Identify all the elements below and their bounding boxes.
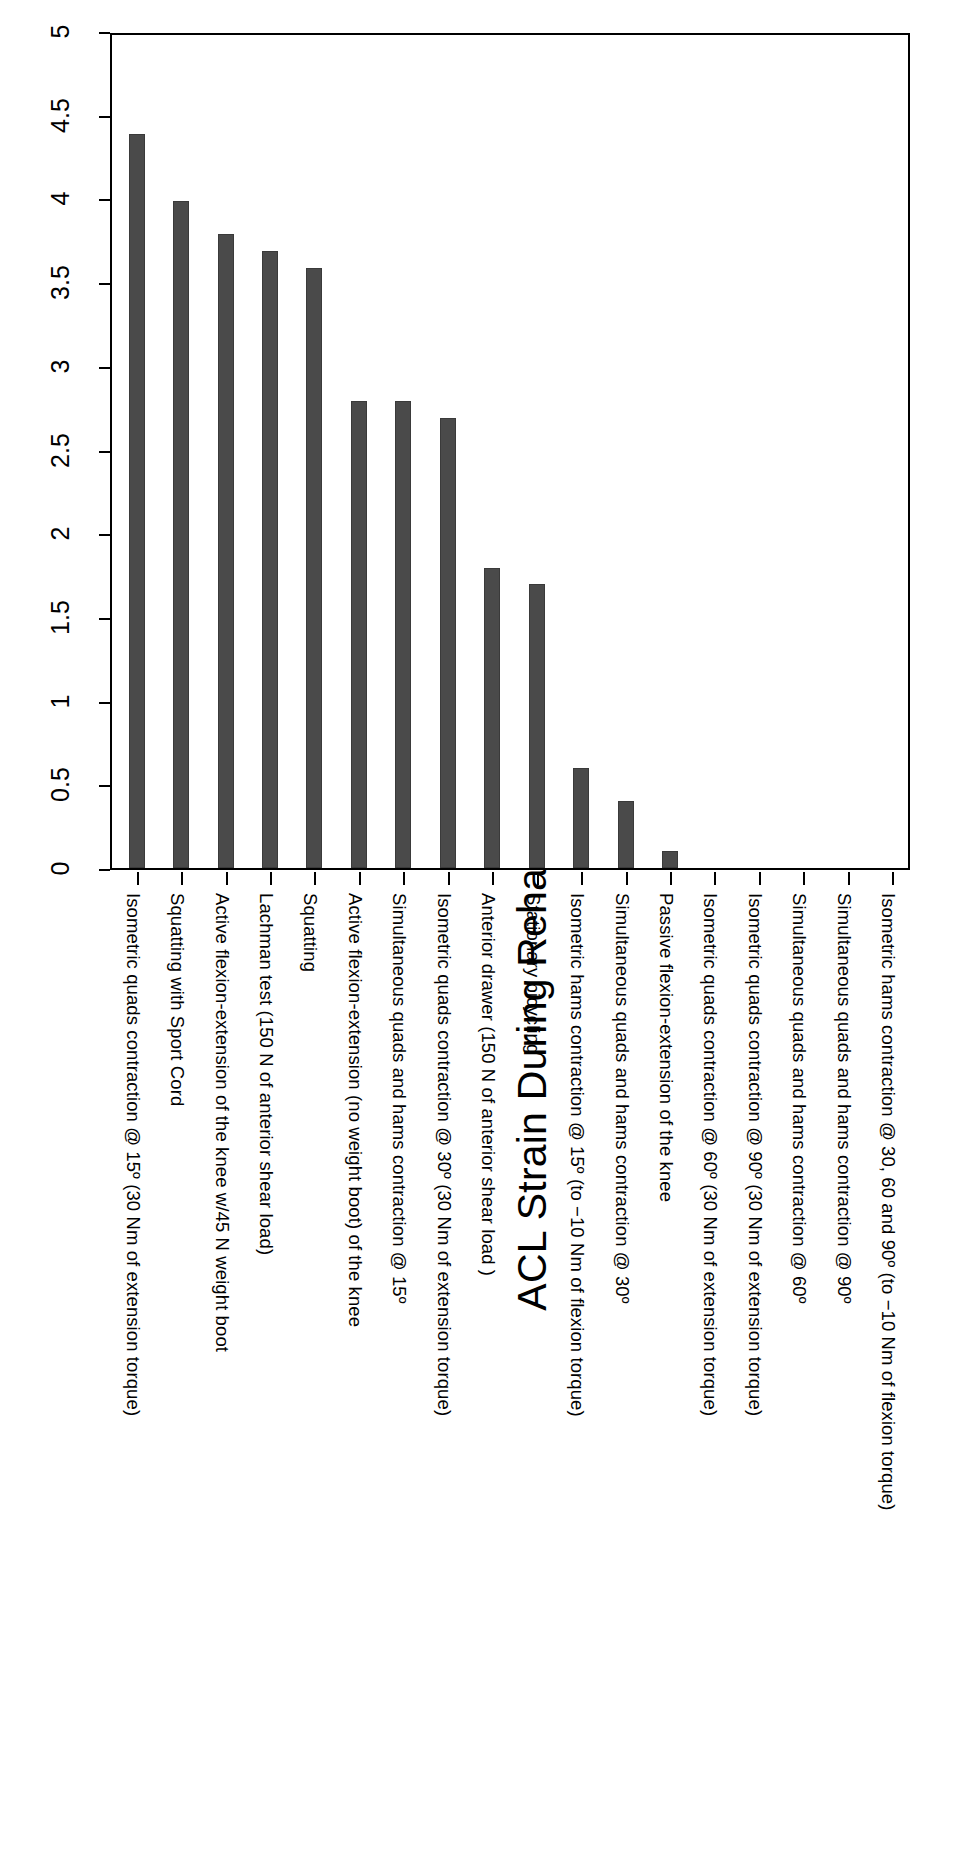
x-axis-tick [226, 872, 228, 885]
x-axis-category-label: Squatting with Sport Cord [166, 893, 188, 1106]
x-axis-tick [626, 872, 628, 885]
x-axis-tick [181, 872, 183, 885]
x-axis-tick [448, 872, 450, 885]
bar [351, 401, 367, 868]
x-axis-category-label: Stationary bicycling [522, 893, 544, 1054]
x-axis-tick [848, 872, 850, 885]
y-axis-tick-label: 4.5 [46, 84, 75, 146]
y-axis-tick-label: 0 [46, 838, 75, 900]
y-axis-tick-label: 5 [46, 1, 75, 63]
x-axis-tick [137, 872, 139, 885]
chart-figure: ACL Strain During Rehabilitation Activit… [0, 0, 957, 1870]
x-axis-category-label: Lachman test (150 N of anterior shear lo… [255, 893, 277, 1255]
x-axis-category-label: Isometric hams contraction @ 15º (to −10… [566, 893, 588, 1417]
bar [440, 418, 456, 868]
y-axis-tick [99, 618, 110, 620]
x-axis-tick [759, 872, 761, 885]
y-axis-tick [99, 32, 110, 34]
x-axis-tick [314, 872, 316, 885]
bar [218, 234, 234, 868]
bar [529, 584, 545, 868]
x-axis-category-label: Simultaneous quads and hams contraction … [388, 893, 410, 1304]
y-axis-tick-label: 1.5 [46, 586, 75, 648]
y-axis-tick-label: 2.5 [46, 419, 75, 481]
x-axis-tick [803, 872, 805, 885]
x-axis-category-label: Simultaneous quads and hams contraction … [788, 893, 810, 1304]
x-axis-category-label: Isometric quads contraction @ 30º (30 Nm… [433, 893, 455, 1416]
bar [484, 568, 500, 868]
bar [129, 134, 145, 868]
y-axis-tick [99, 785, 110, 787]
y-axis-tick-label: 2 [46, 503, 75, 565]
x-axis-category-label: Isometric quads contraction @ 90º (30 Nm… [744, 893, 766, 1416]
bar [262, 251, 278, 868]
x-axis-tick [492, 872, 494, 885]
y-axis-tick [99, 116, 110, 118]
y-axis-tick [99, 199, 110, 201]
x-axis-category-label: Simultaneous quads and hams contraction … [833, 893, 855, 1304]
x-axis-category-label: Passive flexion-extension of the knee [655, 893, 677, 1202]
x-axis-tick [403, 872, 405, 885]
x-axis-tick [537, 872, 539, 885]
y-axis-tick [99, 869, 110, 871]
x-axis-tick [270, 872, 272, 885]
y-axis-tick [99, 534, 110, 536]
y-axis-tick-label: 1 [46, 670, 75, 732]
bar [395, 401, 411, 868]
y-axis-tick [99, 451, 110, 453]
x-axis-category-label: Isometric quads contraction @ 15º (30 Nm… [122, 893, 144, 1416]
y-axis-tick [99, 283, 110, 285]
x-axis-tick [670, 872, 672, 885]
y-axis-tick [99, 367, 110, 369]
bar [618, 801, 634, 868]
bar [573, 768, 589, 868]
bar [306, 268, 322, 868]
x-axis-tick [892, 872, 894, 885]
bar [662, 851, 678, 868]
x-axis-category-label: Isometric hams contraction @ 30, 60 and … [877, 893, 899, 1510]
x-axis-tick [359, 872, 361, 885]
y-axis-tick [99, 702, 110, 704]
x-axis-category-label: Squatting [299, 893, 321, 972]
x-axis-tick [581, 872, 583, 885]
bar [173, 201, 189, 868]
y-axis-tick-label: 3 [46, 335, 75, 397]
x-axis-tick [714, 872, 716, 885]
y-axis-tick-label: 3.5 [46, 252, 75, 314]
y-axis-tick-label: 0.5 [46, 754, 75, 816]
x-axis-category-label: Simultaneous quads and hams contraction … [611, 893, 633, 1304]
x-axis-category-label: Active flexion-extension (no weight boot… [344, 893, 366, 1327]
x-axis-category-label: Active flexion-extension of the knee w/4… [211, 893, 233, 1352]
y-axis-tick-label: 4 [46, 168, 75, 230]
x-axis-category-label: Isometric quads contraction @ 60º (30 Nm… [699, 893, 721, 1416]
x-axis-category-label: Anterior drawer (150 N of anterior shear… [477, 893, 499, 1276]
